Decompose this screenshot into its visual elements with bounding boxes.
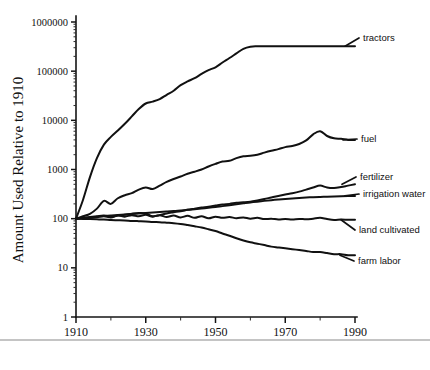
y-tick-label: 100 <box>52 213 68 224</box>
x-tick-label: 1930 <box>134 325 158 339</box>
y-tick-label: 1000 <box>47 164 68 175</box>
series-line-farm-labor <box>76 219 355 256</box>
series-label-irrigation-water: irrigation water <box>363 188 425 199</box>
series-label-tractors: tractors <box>363 32 395 43</box>
series-label-fertilizer: fertilizer <box>360 171 393 182</box>
x-tick-label: 1950 <box>204 325 228 339</box>
leader-line-fuel <box>343 139 357 140</box>
y-tick-label: 1000000 <box>31 17 68 28</box>
leader-line-tractors <box>345 38 359 46</box>
y-tick-label: 1 <box>63 312 68 323</box>
series-line-tractors <box>76 46 355 218</box>
series-label-fuel: fuel <box>361 133 376 144</box>
chart-series-labels: tractorsfuelfertilizerirrigation waterla… <box>340 32 425 266</box>
x-tick-label: 1990 <box>343 325 367 339</box>
leader-line-irrigation-water <box>345 194 359 196</box>
chart-plot-lines <box>76 46 355 255</box>
chart-axes: 1101001000100001000001000000191019301950… <box>31 16 367 339</box>
series-line-land-cultivated <box>76 215 355 220</box>
leader-line-fertilizer <box>342 177 356 184</box>
chart-svg: 1101001000100001000001000000191019301950… <box>0 0 430 370</box>
y-axis-title: Amount Used Relative to 1910 <box>10 77 26 264</box>
x-tick-label: 1910 <box>64 325 88 339</box>
y-tick-label: 100000 <box>37 66 69 77</box>
x-tick-label: 1970 <box>273 325 297 339</box>
chart-figure: 1101001000100001000001000000191019301950… <box>0 0 430 370</box>
series-label-land-cultivated: land cultivated <box>359 224 420 235</box>
leader-line-land-cultivated <box>341 220 355 230</box>
series-label-farm-labor: farm labor <box>358 255 401 266</box>
series-line-fertilizer <box>76 184 355 218</box>
y-tick-label: 10 <box>58 262 69 273</box>
y-tick-label: 10000 <box>42 115 68 126</box>
